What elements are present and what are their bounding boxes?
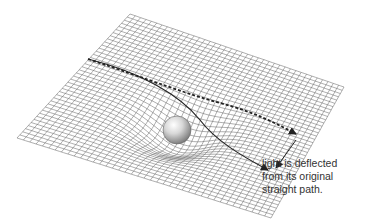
caption-line-1: light is deflected: [262, 157, 337, 170]
deflection-caption: light is deflected from its original str…: [262, 157, 337, 196]
grid-line: [144, 51, 237, 179]
grid-line: [265, 85, 339, 216]
grid-line: [271, 87, 344, 218]
mass-sphere: [163, 116, 191, 144]
caption-line-2: from its original: [262, 170, 337, 183]
caption-line-3: straight path.: [262, 183, 337, 196]
